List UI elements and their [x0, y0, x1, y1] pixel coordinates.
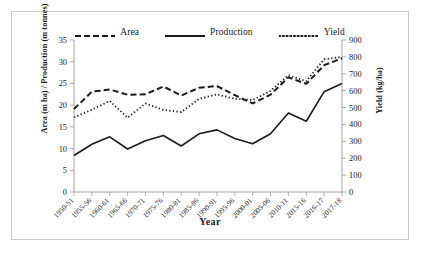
chart-plot-area: 05101520253035 0100200300400500600700800… [12, 34, 410, 219]
chart-figure: Area Production Yield Area (m ha) / Prod… [11, 11, 409, 240]
svg-text:20: 20 [59, 101, 67, 110]
svg-text:10: 10 [59, 145, 67, 154]
svg-text:700: 700 [349, 70, 362, 79]
y-axis-left: 05101520253035 [59, 36, 74, 197]
series-line-area [74, 58, 342, 109]
chart-series-group [74, 57, 342, 156]
series-line-production [74, 83, 342, 155]
svg-text:25: 25 [59, 79, 67, 88]
svg-text:30: 30 [59, 58, 67, 67]
svg-text:0: 0 [349, 188, 353, 197]
svg-text:5: 5 [63, 166, 67, 175]
svg-text:200: 200 [349, 154, 362, 163]
svg-text:600: 600 [349, 87, 362, 96]
svg-text:500: 500 [349, 104, 362, 113]
svg-text:800: 800 [349, 53, 362, 62]
y-axis-right: 0100200300400500600700800900 [342, 36, 362, 197]
svg-text:900: 900 [349, 36, 362, 45]
x-axis: 1950-511955-561960-611965-661970-711975-… [52, 192, 344, 219]
svg-text:400: 400 [349, 120, 362, 129]
svg-text:35: 35 [59, 36, 67, 45]
svg-text:15: 15 [59, 123, 67, 132]
svg-text:2017-18: 2017-18 [320, 196, 344, 219]
svg-text:0: 0 [63, 188, 67, 197]
svg-text:300: 300 [349, 137, 362, 146]
svg-text:100: 100 [349, 171, 362, 180]
